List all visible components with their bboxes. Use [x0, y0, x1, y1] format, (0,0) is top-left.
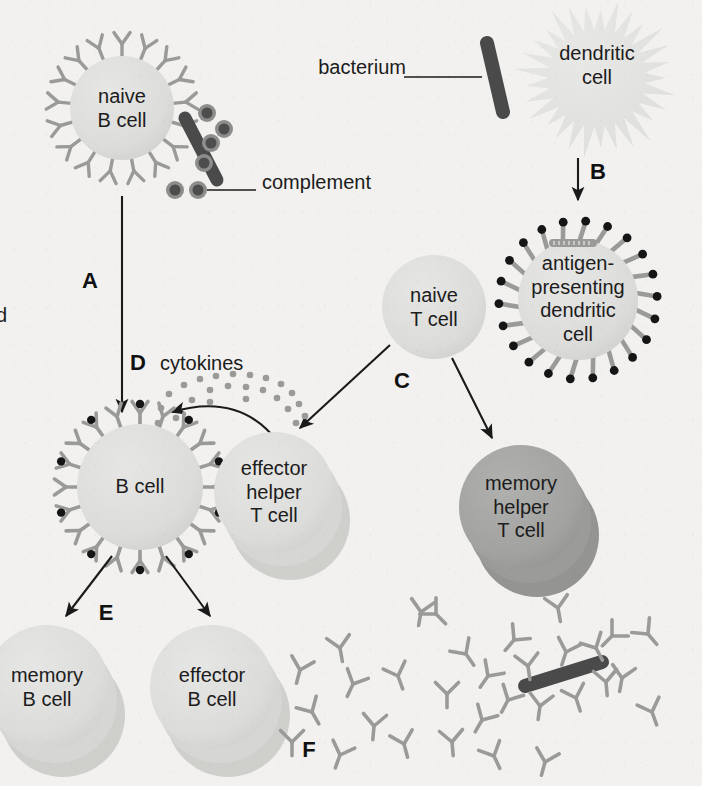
antibody-icon [439, 729, 464, 756]
antigen-presenting-cell-graphic [495, 217, 662, 383]
dendritic-cell-graphic [515, 1, 676, 159]
antibody-icon [296, 696, 329, 729]
antibody-icon [390, 730, 419, 760]
antibody-icon [285, 656, 314, 686]
complement-coated-bacterium [166, 104, 256, 199]
antibody-icon [324, 740, 354, 772]
antibody-icon [530, 748, 559, 778]
antibody-icon [637, 697, 667, 729]
activated-b-cell-graphic [54, 400, 225, 574]
antibody-icon [496, 624, 530, 658]
antibody-icon [420, 598, 454, 632]
antibody-icon [593, 669, 618, 696]
antibody-icon [471, 660, 504, 694]
antibody-icon [450, 638, 483, 672]
antibody-icon [361, 713, 386, 740]
naive-t-cell-graphic [382, 255, 486, 359]
naive-b-cell-graphic [46, 33, 198, 184]
antibody-icon [383, 661, 413, 693]
antibody-icon [561, 683, 591, 714]
memory-b-cell-graphic [0, 625, 125, 777]
antibody-icon [479, 741, 511, 774]
antibody-icon [632, 618, 666, 652]
diagram-graphics [0, 0, 702, 786]
immunology-diagram: naive B cell dendritic cell antigen- pre… [0, 0, 702, 786]
antibody-icon [527, 693, 553, 721]
antibody-icon [327, 635, 354, 664]
antibody-icon [435, 682, 458, 707]
effector-helper-t-cell-graphic [214, 432, 350, 580]
cytokines-graphic [155, 371, 309, 442]
antibody-icon [491, 684, 523, 717]
memory-helper-t-cell-graphic [459, 445, 599, 597]
antibody-icon [337, 669, 369, 702]
bacterium-graphic [404, 43, 503, 112]
antibody-icon [465, 704, 498, 737]
antibody-icon [280, 730, 303, 755]
antibody-icon [545, 595, 572, 624]
arrow-e-right [166, 556, 210, 616]
effector-b-cell-graphic [150, 625, 290, 777]
opsonized-bacterium [525, 662, 602, 686]
arrow-c-right [452, 358, 492, 438]
arrow-c-left [300, 345, 390, 428]
antibody-field-graphic [280, 595, 667, 779]
arrow-e-left [66, 556, 112, 616]
antibody-icon [608, 665, 635, 694]
